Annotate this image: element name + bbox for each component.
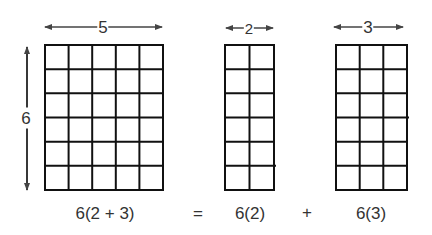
width-label-3: 3	[362, 19, 373, 36]
grid-5-by-6	[45, 45, 163, 190]
grid-2-by-6	[225, 45, 276, 190]
width-label-5: 5	[97, 19, 108, 36]
equals-sign: =	[193, 205, 203, 222]
grid-3-by-6	[336, 45, 409, 190]
plus-sign: +	[302, 204, 312, 221]
height-label-6: 6	[20, 108, 31, 129]
equation-lhs: 6(2 + 3)	[75, 205, 134, 222]
width-label-2: 2	[244, 21, 254, 36]
equation-term2: 6(3)	[356, 205, 386, 222]
equation-term1: 6(2)	[235, 205, 265, 222]
